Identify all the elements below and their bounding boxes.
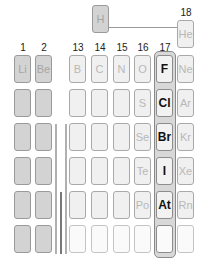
group-label-1: 1 bbox=[13, 42, 33, 53]
element-Se[interactable]: Se bbox=[134, 123, 151, 151]
element-Xe[interactable]: Xe bbox=[177, 157, 194, 185]
element-Kr[interactable]: Kr bbox=[177, 123, 194, 151]
element-Ar[interactable]: Ar bbox=[177, 89, 194, 117]
element-period4-group1[interactable] bbox=[14, 123, 31, 151]
element-period7-group14[interactable] bbox=[91, 225, 108, 253]
f-block-bar bbox=[60, 192, 62, 254]
element-period7-group15[interactable] bbox=[113, 225, 130, 253]
element-Te[interactable]: Te bbox=[134, 157, 151, 185]
group-label-18: 18 bbox=[176, 7, 196, 18]
element-Be[interactable]: Be bbox=[35, 55, 52, 83]
element-period7-group16[interactable] bbox=[134, 225, 151, 253]
element-period5-group15[interactable] bbox=[113, 157, 130, 185]
h-he-connector bbox=[109, 27, 178, 28]
element-S[interactable]: S bbox=[134, 89, 151, 117]
element-period4-group2[interactable] bbox=[35, 123, 52, 151]
element-N[interactable]: N bbox=[113, 55, 130, 83]
element-period4-group13[interactable] bbox=[69, 123, 86, 151]
element-period6-group2[interactable] bbox=[35, 191, 52, 219]
element-period6-group14[interactable] bbox=[91, 191, 108, 219]
element-H[interactable]: H bbox=[92, 5, 109, 33]
group-label-15: 15 bbox=[112, 42, 132, 53]
element-period3-group13[interactable] bbox=[69, 89, 86, 117]
element-He[interactable]: He bbox=[177, 20, 194, 48]
element-Cl[interactable]: Cl bbox=[156, 89, 173, 117]
element-period4-group15[interactable] bbox=[113, 123, 130, 151]
element-period7-group18[interactable] bbox=[177, 225, 194, 253]
element-Br[interactable]: Br bbox=[156, 123, 173, 151]
d-block-bar-right bbox=[65, 124, 67, 254]
element-period6-group15[interactable] bbox=[113, 191, 130, 219]
element-At[interactable]: At bbox=[156, 191, 173, 219]
element-Li[interactable]: Li bbox=[14, 55, 31, 83]
element-period5-group13[interactable] bbox=[69, 157, 86, 185]
element-B[interactable]: B bbox=[69, 55, 86, 83]
d-block-bar-left bbox=[55, 124, 57, 254]
element-period6-group1[interactable] bbox=[14, 191, 31, 219]
group-label-14: 14 bbox=[90, 42, 110, 53]
element-period3-group1[interactable] bbox=[14, 89, 31, 117]
element-period5-group14[interactable] bbox=[91, 157, 108, 185]
group-label-16: 16 bbox=[133, 42, 153, 53]
group-label-2: 2 bbox=[34, 42, 54, 53]
element-period4-group14[interactable] bbox=[91, 123, 108, 151]
element-O[interactable]: O bbox=[134, 55, 151, 83]
element-period3-group14[interactable] bbox=[91, 89, 108, 117]
element-Ne[interactable]: Ne bbox=[177, 55, 194, 83]
element-period3-group2[interactable] bbox=[35, 89, 52, 117]
group-label-13: 13 bbox=[68, 42, 88, 53]
element-period7-group1[interactable] bbox=[14, 225, 31, 253]
element-period6-group13[interactable] bbox=[69, 191, 86, 219]
element-F[interactable]: F bbox=[156, 55, 173, 83]
element-period7-group17[interactable] bbox=[156, 225, 173, 253]
element-period3-group15[interactable] bbox=[113, 89, 130, 117]
element-Po[interactable]: Po bbox=[134, 191, 151, 219]
element-C[interactable]: C bbox=[91, 55, 108, 83]
element-period5-group2[interactable] bbox=[35, 157, 52, 185]
element-I[interactable]: I bbox=[156, 157, 173, 185]
element-period7-group2[interactable] bbox=[35, 225, 52, 253]
element-period5-group1[interactable] bbox=[14, 157, 31, 185]
element-Rn[interactable]: Rn bbox=[177, 191, 194, 219]
element-period7-group13[interactable] bbox=[69, 225, 86, 253]
